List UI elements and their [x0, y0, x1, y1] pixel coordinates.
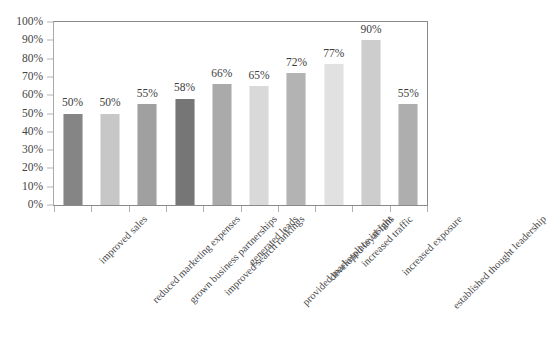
bar: [250, 86, 269, 205]
y-axis-tick-label: 50%: [22, 108, 43, 120]
y-axis-tick-label: 100%: [16, 16, 43, 28]
y-axis-tick-label: 80%: [22, 53, 43, 65]
bar-value-label: 65%: [249, 70, 270, 82]
bar-series: 50%50%55%58%66%65%72%77%90%55%: [54, 22, 427, 205]
x-axis-label: established thought leadership: [452, 214, 549, 311]
bar-slot: 66%: [203, 22, 240, 205]
bar-slot: 72%: [278, 22, 315, 205]
bar: [63, 114, 82, 206]
bar-slot: 58%: [166, 22, 203, 205]
bar: [324, 64, 343, 205]
bar: [399, 104, 418, 205]
bar-slot: 90%: [352, 22, 389, 205]
bar: [362, 40, 381, 205]
bar: [138, 104, 157, 205]
bar-value-label: 50%: [99, 97, 120, 109]
bar-value-label: 90%: [360, 24, 381, 36]
cropped-chart-title: [26, 0, 326, 3]
y-axis: 0%10%20%30%40%50%60%70%80%90%100%: [0, 21, 53, 206]
bar-slot: 55%: [129, 22, 166, 205]
bar-value-label: 77%: [323, 48, 344, 60]
y-axis-tick-label: 40%: [22, 126, 43, 138]
bar-slot: 77%: [315, 22, 352, 205]
y-axis-tick-label: 60%: [22, 89, 43, 101]
bar-slot: 50%: [91, 22, 128, 205]
y-axis-tick-label: 30%: [22, 144, 43, 156]
bar: [212, 84, 231, 205]
bar-value-label: 55%: [398, 88, 419, 100]
bar: [100, 114, 119, 206]
bar-value-label: 58%: [174, 82, 195, 94]
bar: [287, 73, 306, 205]
bar-slot: 65%: [241, 22, 278, 205]
y-axis-tick-label: 10%: [22, 181, 43, 193]
y-axis-tick-label: 70%: [22, 71, 43, 83]
bar-value-label: 50%: [62, 97, 83, 109]
bar-value-label: 72%: [286, 57, 307, 69]
bar-value-label: 55%: [137, 88, 158, 100]
bar: [175, 99, 194, 205]
x-axis-labels: improved salesreduced marketing expenses…: [0, 206, 487, 352]
bar-value-label: 66%: [211, 68, 232, 80]
bar-slot: 50%: [54, 22, 91, 205]
bar-slot: 55%: [390, 22, 427, 205]
y-axis-tick-label: 20%: [22, 163, 43, 175]
x-axis-label: improved sales: [97, 214, 149, 266]
y-axis-tick-label: 90%: [22, 35, 43, 47]
